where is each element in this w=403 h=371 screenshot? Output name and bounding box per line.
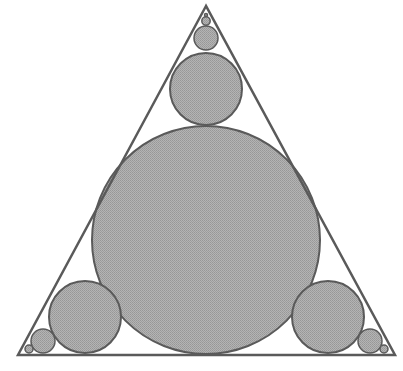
circle-left-3 xyxy=(25,345,33,353)
circle-top-1 xyxy=(170,53,242,125)
circle-top-3 xyxy=(202,17,210,25)
circle-incircle xyxy=(92,126,320,354)
circle-right-3 xyxy=(380,345,388,353)
circle-top-4 xyxy=(205,14,208,17)
circle-right-1 xyxy=(292,281,364,353)
circle-left-2 xyxy=(31,329,55,353)
diagram-canvas xyxy=(0,0,403,371)
circle-left-1 xyxy=(49,281,121,353)
triangle-circles-figure xyxy=(0,0,403,371)
circle-top-2 xyxy=(194,26,218,50)
circle-right-2 xyxy=(358,329,382,353)
circles-group xyxy=(25,14,388,355)
